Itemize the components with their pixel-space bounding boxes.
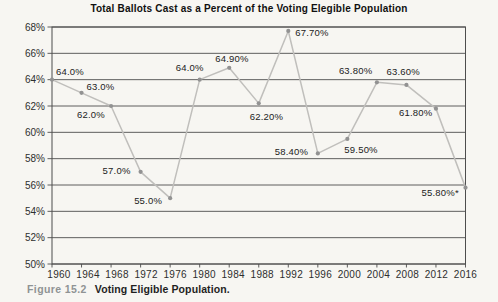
data-point-label: 64.90% <box>215 53 249 64</box>
x-tick-label: 1980 <box>192 269 216 280</box>
y-tick-label: 60% <box>25 127 45 138</box>
x-tick-label: 2016 <box>454 269 478 280</box>
data-point-label: 63.0% <box>87 81 115 92</box>
y-tick-label: 50% <box>25 259 45 270</box>
x-axis-ticks <box>52 264 466 268</box>
x-tick-label: 2012 <box>425 269 449 280</box>
figure-15-2-page: Total Ballots Cast as a Percent of the V… <box>0 0 498 302</box>
data-point-label: 55.80%* <box>422 187 459 198</box>
plot-border <box>52 27 466 264</box>
x-tick-label: 1968 <box>105 269 129 280</box>
x-tick-label: 1960 <box>47 269 71 280</box>
data-point <box>375 80 379 84</box>
data-point-label: 59.50% <box>344 144 378 155</box>
y-tick-label: 68% <box>25 22 45 33</box>
data-point <box>168 196 172 200</box>
x-tick-label: 1992 <box>280 269 304 280</box>
y-axis-ticks <box>48 27 53 264</box>
y-tick-label: 58% <box>25 153 45 164</box>
data-point-label: 64.0% <box>176 62 204 73</box>
data-point-label: 61.80% <box>399 107 433 118</box>
y-tick-label: 54% <box>25 206 45 217</box>
x-tick-label: 1984 <box>221 269 245 280</box>
data-point <box>286 29 290 33</box>
x-tick-label: 1964 <box>76 269 100 280</box>
y-tick-label: 56% <box>25 180 45 191</box>
data-point-label: 55.0% <box>134 195 162 206</box>
data-point-label: 67.70% <box>295 27 329 38</box>
y-tick-label: 64% <box>25 74 45 85</box>
y-tick-label: 66% <box>25 48 45 59</box>
data-point-label: 63.80% <box>339 65 373 76</box>
x-tick-label: 1972 <box>134 269 158 280</box>
data-point-label: 62.20% <box>250 111 284 122</box>
data-point-label: 57.0% <box>103 165 131 176</box>
line-chart: 50%52%54%56%58%60%62%64%66%68%1960196419… <box>0 0 498 284</box>
data-point-label: 63.60% <box>386 66 420 77</box>
figure-caption: Figure 15.2Voting Eligible Population. <box>27 283 230 295</box>
data-point-label: 64.0% <box>56 66 84 77</box>
y-tick-label: 52% <box>25 232 45 243</box>
data-point <box>404 83 408 87</box>
x-tick-label: 2008 <box>396 269 420 280</box>
data-point <box>257 101 261 105</box>
x-tick-label: 1996 <box>309 269 333 280</box>
gridlines <box>52 27 466 264</box>
data-point <box>227 66 231 70</box>
data-point <box>316 151 320 155</box>
data-point <box>463 186 467 190</box>
data-point <box>345 137 349 141</box>
data-point <box>79 91 83 95</box>
chart-title: Total Ballots Cast as a Percent of the V… <box>0 3 498 14</box>
x-tick-label: 1976 <box>163 269 187 280</box>
data-point <box>109 104 113 108</box>
x-tick-label: 2004 <box>367 269 391 280</box>
data-point <box>434 107 438 111</box>
data-point-label: 58.40% <box>275 146 309 157</box>
data-point <box>198 78 202 82</box>
y-axis-labels: 50%52%54%56%58%60%62%64%66%68% <box>25 22 45 270</box>
data-point <box>50 78 54 82</box>
x-tick-label: 1988 <box>251 269 275 280</box>
figure-label: Figure 15.2 <box>27 283 87 295</box>
x-tick-label: 2000 <box>338 269 362 280</box>
data-point-label: 62.0% <box>77 109 105 120</box>
data-point <box>139 170 143 174</box>
y-tick-label: 62% <box>25 101 45 112</box>
figure-caption-text: Voting Eligible Population. <box>95 283 230 295</box>
x-axis-labels: 1960196419681972197619801984198819921996… <box>47 269 477 280</box>
